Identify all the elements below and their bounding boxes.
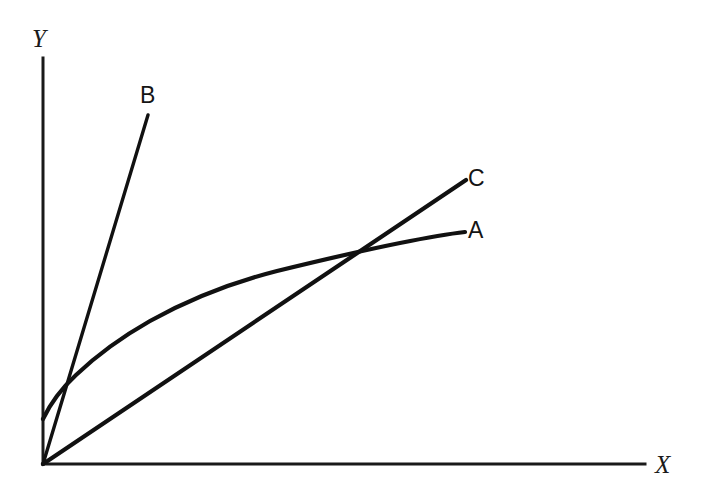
series-label-b: B [140,84,155,107]
series-curve-a [43,232,465,419]
series-line-c [43,180,466,464]
x-axis-label: X [655,452,670,477]
y-axis-label: Y [32,26,46,51]
chart-figure: Y X B C A [0,0,707,499]
series-label-a: A [468,219,483,242]
series-label-c: C [468,167,485,190]
series-line-b [43,115,148,464]
chart-canvas [0,0,707,499]
